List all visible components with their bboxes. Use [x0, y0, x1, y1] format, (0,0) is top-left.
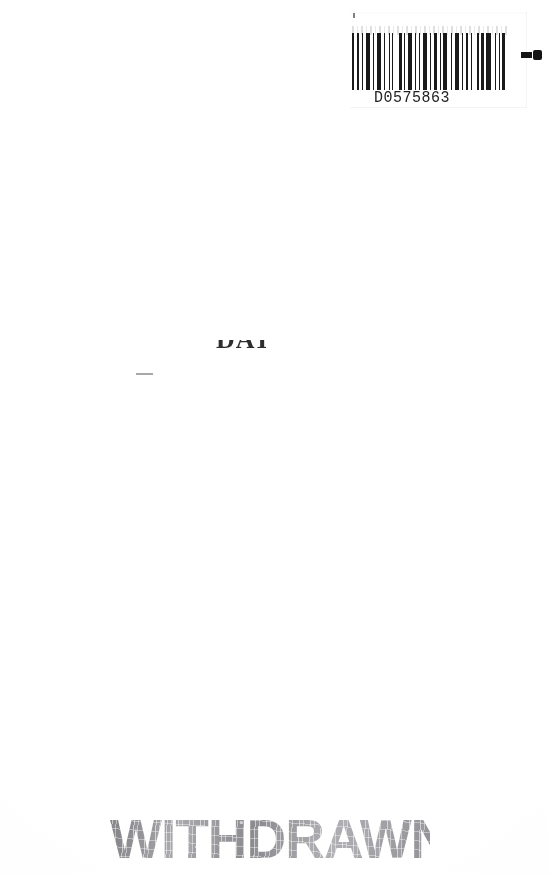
- barcode-bar: [434, 33, 436, 90]
- barcode-bar: [423, 33, 428, 90]
- barcode-end-dot: [533, 50, 542, 60]
- barcode-bar: [352, 33, 354, 90]
- barcode-number-text: D0575863: [374, 89, 450, 108]
- barcode-bar: [392, 33, 393, 90]
- barcode-end-dash: [521, 52, 532, 58]
- barcode-bar: [408, 33, 412, 90]
- barcode-bar: [471, 33, 472, 90]
- scanned-page: D0575863 DAT WITHDRAWN: [0, 0, 549, 875]
- barcode-bar: [451, 33, 452, 90]
- withdrawn-stamp-label: WITHDRAWN: [110, 810, 430, 868]
- barcode-bar: [415, 33, 416, 90]
- barcode-bar: [486, 33, 491, 90]
- barcode-bar: [399, 33, 401, 90]
- barcode-bar: [362, 33, 363, 90]
- barcode-bar: [430, 33, 431, 90]
- barcode-bar: [462, 33, 463, 90]
- barcode-bar: [419, 33, 420, 90]
- barcode-bar: [481, 33, 483, 90]
- barcode-bar: [389, 33, 390, 90]
- faded-dash-mark: [136, 373, 153, 375]
- barcode-bar: [404, 33, 405, 90]
- barcode-end-mark-icon: [521, 50, 543, 60]
- barcode-bar: [499, 33, 500, 90]
- barcode-bar: [377, 33, 382, 90]
- paper-speckle-overlay: [0, 0, 549, 875]
- barcode-bar: [455, 33, 460, 90]
- barcode-bars-icon: [352, 33, 509, 90]
- faded-text-fragment-glyphs: DAT: [216, 340, 266, 355]
- barcode-bar: [443, 33, 447, 90]
- barcode-bar: [366, 33, 370, 90]
- paper-tone-overlay: [0, 0, 549, 875]
- barcode-bar: [466, 33, 468, 90]
- barcode-bar: [495, 33, 496, 90]
- faded-text-fragment: DAT: [216, 340, 266, 366]
- barcode-bar: [477, 33, 478, 90]
- barcode-bar: [440, 33, 441, 90]
- barcode-bar: [502, 33, 506, 90]
- withdrawn-stamp: WITHDRAWN: [110, 810, 430, 870]
- barcode-label: D0575863: [350, 12, 526, 107]
- barcode-bar: [384, 33, 385, 90]
- barcode-corner-tick-icon: [353, 13, 355, 18]
- barcode-bar: [373, 33, 374, 90]
- barcode-bar: [357, 33, 358, 90]
